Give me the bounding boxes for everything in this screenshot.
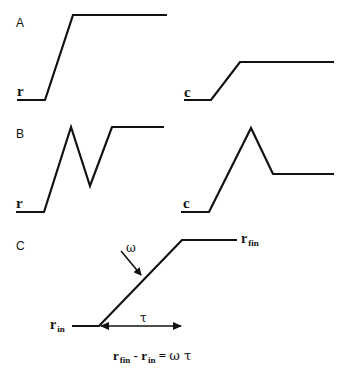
panel-b-output-label: c bbox=[183, 196, 190, 211]
eq-r-fin-sub: fin bbox=[120, 355, 131, 365]
r-fin-label: rfin bbox=[241, 232, 259, 246]
panel-a-output-label: c bbox=[184, 85, 191, 100]
panel-b-output-trace bbox=[181, 128, 334, 212]
r-fin-symbol: r bbox=[241, 231, 247, 246]
panel-a-output-trace bbox=[184, 62, 334, 100]
eq-rhs: ω τ bbox=[169, 348, 191, 363]
panel-a-input-label: r bbox=[17, 84, 24, 99]
omega-label: ω bbox=[126, 242, 136, 254]
panel-b-input-label: r bbox=[16, 196, 23, 211]
panel-a-label: A bbox=[16, 17, 24, 29]
r-fin-subscript: fin bbox=[248, 238, 259, 248]
eq-minus: - bbox=[130, 348, 141, 363]
r-in-symbol: r bbox=[50, 317, 56, 332]
equation: rfin - rin = ω τ bbox=[113, 349, 191, 362]
panel-b-label: B bbox=[16, 128, 24, 140]
eq-r-in: r bbox=[141, 348, 147, 363]
r-in-subscript: in bbox=[57, 324, 65, 334]
tau-label: τ bbox=[140, 312, 147, 324]
panel-a-input-trace bbox=[17, 15, 167, 100]
panel-c-label: C bbox=[16, 240, 25, 252]
panel-c-ramp-trace bbox=[72, 240, 237, 326]
eq-r-in-sub: in bbox=[148, 355, 156, 365]
eq-equals: = bbox=[155, 348, 169, 363]
eq-r-fin: r bbox=[113, 348, 119, 363]
panel-b-input-trace bbox=[16, 127, 164, 212]
r-in-label: rin bbox=[50, 318, 65, 332]
